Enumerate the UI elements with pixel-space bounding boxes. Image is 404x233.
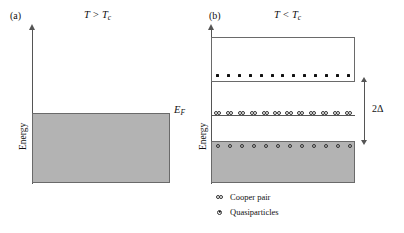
- quasiparticle-dot: [227, 74, 230, 77]
- panel-a-title-subscript: c: [108, 13, 111, 22]
- quasiparticle-dot: [303, 74, 306, 77]
- cooper-pair-icon: [345, 111, 352, 115]
- panel-b-title-subscript: c: [298, 13, 301, 22]
- legend-label-cooper-pair: Cooper pair: [230, 192, 270, 202]
- cooper-pair-icon: [309, 111, 316, 115]
- energy-axis-label-b: Energy: [198, 123, 208, 150]
- cooper-pair-icon: [333, 111, 340, 115]
- hole-circle: [288, 144, 292, 148]
- legend-item-cooper-pair: Cooper pair: [214, 192, 279, 202]
- legend: Cooper pair Quasiparticles: [214, 192, 279, 217]
- gap-label-2delta: 2Δ: [372, 103, 383, 114]
- quasiparticle-dot: [314, 74, 317, 77]
- cooper-pair-icon: [238, 111, 245, 115]
- cooper-pair-icon: [214, 111, 221, 115]
- quasiparticle-dot: [260, 74, 263, 77]
- hole-circle: [336, 144, 340, 148]
- gap-arrow-head-down: [361, 140, 367, 145]
- hole-circle: [216, 144, 220, 148]
- quasiparticle-dot: [325, 74, 328, 77]
- cooper-pair-icon: [262, 111, 269, 115]
- panel-b-title-relation: <: [280, 9, 292, 20]
- cooper-pair-icon: [273, 111, 280, 115]
- panel-a-label: (a): [10, 10, 21, 21]
- cooper-pair-level-line: [211, 115, 355, 116]
- hole-circle: [252, 144, 256, 148]
- quasiparticle-dot: [281, 74, 284, 77]
- quasiparticle-dot: [347, 74, 350, 77]
- quasiparticle-dot: [249, 74, 252, 77]
- panel-a-title-Tc: T: [102, 9, 108, 20]
- quasiparticle-dot-row: [216, 74, 350, 77]
- legend-label-quasiparticles: Quasiparticles: [230, 207, 279, 217]
- quasiparticle-icon: [214, 210, 225, 215]
- panel-b-title: T < Tc: [274, 9, 301, 20]
- hole-circle: [228, 144, 232, 148]
- occupied-band-a: [32, 113, 170, 183]
- panel-a-title-relation: >: [90, 9, 102, 20]
- fermi-level-label-a: EF: [174, 104, 185, 115]
- panel-b: (b) T < Tc Energy: [200, 0, 404, 233]
- hole-circle-row: [216, 144, 352, 148]
- hole-circle: [348, 144, 352, 148]
- hole-circle: [240, 144, 244, 148]
- quasiparticle-dot: [292, 74, 295, 77]
- panel-a: (a) T > Tc Energy EF: [0, 0, 200, 233]
- fermi-level-subscript: F: [180, 108, 185, 117]
- hole-circle: [264, 144, 268, 148]
- quasiparticle-dot: [336, 74, 339, 77]
- hole-circle: [300, 144, 304, 148]
- quasiparticle-dot: [216, 74, 219, 77]
- hole-circle: [324, 144, 328, 148]
- figure-canvas: (a) T > Tc Energy EF (b) T < Tc Energy: [0, 0, 404, 233]
- quasiparticle-dot: [238, 74, 241, 77]
- gap-arrow-shaft: [364, 82, 365, 140]
- cooper-pair-row: [214, 111, 352, 115]
- cooper-pair-icon: [214, 195, 225, 199]
- cooper-pair-icon: [226, 111, 233, 115]
- cooper-pair-icon: [285, 111, 292, 115]
- quasiparticle-dot: [271, 74, 274, 77]
- cooper-pair-icon: [321, 111, 328, 115]
- panel-b-label: (b): [209, 10, 221, 21]
- legend-item-quasiparticles: Quasiparticles: [214, 207, 279, 217]
- panel-b-title-Tc: T: [292, 9, 298, 20]
- hole-circle: [312, 144, 316, 148]
- cooper-pair-icon: [297, 111, 304, 115]
- panel-a-title: T > Tc: [84, 9, 111, 20]
- hole-circle: [276, 144, 280, 148]
- energy-axis-label-a: Energy: [18, 123, 28, 150]
- cooper-pair-icon: [250, 111, 257, 115]
